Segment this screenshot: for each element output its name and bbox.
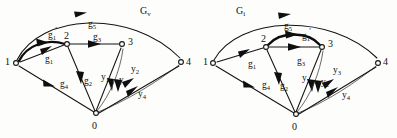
edge-label-Gv-g4-sub: 4 bbox=[65, 83, 68, 90]
arrowhead-Gv-g5 bbox=[74, 12, 87, 18]
node-Gi-1 bbox=[211, 61, 216, 66]
edge-label-Gi-y3: y3 bbox=[333, 66, 341, 76]
edge-label-Gi-g3-sub: 3 bbox=[302, 60, 305, 67]
edge-label-Gv-g2-sub: 2 bbox=[89, 80, 92, 87]
graph-title-Gi-sub: i bbox=[243, 10, 245, 18]
node-label-Gv-0: 0 bbox=[92, 121, 97, 131]
node-Gi-4 bbox=[376, 61, 381, 66]
edge-label-Gv-g1-sub: 1 bbox=[50, 58, 53, 65]
edge-label-Gi-g2-sub: 2 bbox=[285, 85, 288, 92]
arrowhead-Gi-g1 bbox=[238, 49, 250, 58]
node-Gv-0 bbox=[94, 111, 99, 116]
graph-title-Gi: Gi bbox=[236, 6, 245, 16]
edge-label-Gi-y1: y1 bbox=[302, 74, 310, 84]
edge-label-Gi-g1-prime-sub: 1 bbox=[307, 35, 310, 42]
edge-label-Gi-g5-sub: 5 bbox=[289, 25, 292, 32]
node-label-Gv-2: 2 bbox=[64, 31, 69, 41]
edge-label-Gv-g1: g1 bbox=[45, 55, 53, 65]
edge-label-Gv-g2: g2 bbox=[84, 77, 92, 87]
edge-label-Gi-y4-sub: 4 bbox=[347, 94, 350, 101]
edge-label-Gv-g3: g3 bbox=[93, 33, 101, 43]
edge-label-Gi-g4-sub: 4 bbox=[267, 84, 270, 91]
graph-title-Gv: Gv bbox=[140, 6, 151, 16]
edge-label-Gv-y2-sub: 2 bbox=[136, 68, 139, 75]
node-Gi-0 bbox=[294, 112, 299, 117]
figure-two-directed-graphs: Gv Gi 1 2 3 4 0 1 2 3 4 0 g5 g1′ g1 g3 g… bbox=[0, 0, 397, 138]
edge-label-Gi-y2-sub: 2 bbox=[326, 81, 329, 88]
edge-label-Gi-g1: g1 bbox=[248, 60, 256, 70]
graph-Gi bbox=[211, 13, 381, 117]
edge-label-Gv-y4-sub: 4 bbox=[143, 93, 146, 100]
node-Gi-3 bbox=[320, 45, 325, 50]
node-Gv-2 bbox=[65, 42, 70, 47]
node-Gv-4 bbox=[179, 60, 184, 65]
node-label-Gi-3: 3 bbox=[328, 39, 333, 49]
edge-label-Gi-y2: y2 bbox=[321, 78, 329, 88]
graph-Gv bbox=[14, 12, 184, 116]
edge-label-Gi-g1-prime-mark: ′ bbox=[309, 27, 311, 36]
edge-label-Gi-g1-prime: g1′ bbox=[302, 29, 312, 42]
edge-label-Gv-y1-sub: 1 bbox=[106, 76, 109, 83]
edge-label-Gi-g1-sub: 1 bbox=[253, 63, 256, 70]
edge-label-Gi-y1-sub: 1 bbox=[307, 77, 310, 84]
node-Gv-3 bbox=[120, 42, 125, 47]
arrowhead-Gi-g4 bbox=[243, 81, 255, 88]
edge-Gi-g1-prime bbox=[268, 35, 320, 46]
edge-label-Gv-y1: y1 bbox=[101, 73, 109, 83]
edge-label-Gi-y4: y4 bbox=[342, 91, 350, 101]
edge-label-Gi-g3: g3 bbox=[297, 57, 305, 67]
edge-label-Gv-g5: g5 bbox=[88, 20, 96, 30]
node-label-Gv-4: 4 bbox=[186, 57, 191, 67]
edge-label-Gv-y4: y4 bbox=[138, 90, 146, 100]
node-Gi-2 bbox=[264, 45, 269, 50]
edge-label-Gi-g4: g4 bbox=[262, 81, 270, 91]
edge-label-Gv-g1-prime: g1′ bbox=[48, 28, 58, 41]
edge-Gi-g5 bbox=[214, 25, 377, 60]
edge-label-Gv-g1-prime-mark: ′ bbox=[55, 26, 57, 35]
edge-label-Gi-g2: g2 bbox=[280, 82, 288, 92]
graph-title-Gv-sub: v bbox=[147, 10, 151, 18]
arrowhead-Gi-g5 bbox=[278, 13, 291, 20]
node-label-Gv-1: 1 bbox=[5, 57, 10, 67]
edge-label-Gv-y3-sub: 3 bbox=[124, 79, 127, 86]
node-Gv-1 bbox=[14, 61, 19, 66]
arrowhead-Gv-g4 bbox=[43, 80, 55, 87]
edge-label-Gv-g5-sub: 5 bbox=[93, 23, 96, 30]
edge-label-Gi-g5: g5 bbox=[284, 22, 292, 32]
edge-label-Gv-g3-sub: 3 bbox=[98, 36, 101, 43]
node-label-Gi-2: 2 bbox=[261, 34, 266, 44]
node-label-Gi-0: 0 bbox=[292, 122, 297, 132]
node-label-Gi-1: 1 bbox=[203, 57, 208, 67]
edge-label-Gv-y2: y2 bbox=[131, 65, 139, 75]
edge-label-Gi-y3-sub: 3 bbox=[338, 69, 341, 76]
edge-label-Gv-y3: y3 bbox=[119, 76, 127, 86]
node-label-Gv-3: 3 bbox=[128, 37, 133, 47]
edge-label-Gv-g1-prime-sub: 1 bbox=[53, 34, 56, 41]
node-label-Gi-4: 4 bbox=[383, 57, 388, 67]
edge-label-Gv-g4: g4 bbox=[60, 80, 68, 90]
arrowhead-Gi-g3 bbox=[288, 43, 301, 50]
